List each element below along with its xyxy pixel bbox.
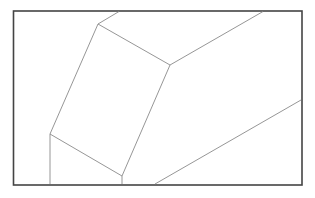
diagram-canvas [0,0,315,198]
box-drawing [0,0,315,198]
frame-border [14,11,303,185]
